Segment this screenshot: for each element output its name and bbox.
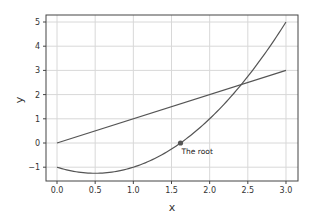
y-tick-label: −1 bbox=[28, 163, 40, 172]
x-tick-label: 0.0 bbox=[51, 186, 64, 195]
x-axis-label: x bbox=[169, 201, 176, 214]
x-tick-label: 1.5 bbox=[165, 186, 178, 195]
x-tick-label: 0.5 bbox=[89, 186, 102, 195]
x-tick-label: 3.0 bbox=[280, 186, 293, 195]
y-axis-ticks: −1012345 bbox=[28, 18, 46, 172]
y-tick-label: 1 bbox=[35, 115, 40, 124]
x-axis-ticks: 0.00.51.01.52.02.53.0 bbox=[51, 181, 293, 195]
y-axis-label: y bbox=[13, 96, 26, 103]
root-annotation: The root bbox=[181, 147, 213, 156]
x-tick-label: 1.0 bbox=[127, 186, 140, 195]
y-tick-label: 4 bbox=[35, 42, 40, 51]
y-tick-label: 5 bbox=[35, 18, 40, 27]
x-tick-label: 2.5 bbox=[241, 186, 254, 195]
y-tick-label: 0 bbox=[35, 139, 40, 148]
line-chart: The root 0.00.51.01.52.02.53.0 −1012345 … bbox=[0, 0, 310, 217]
x-tick-label: 2.0 bbox=[203, 186, 216, 195]
y-tick-label: 2 bbox=[35, 91, 40, 100]
axes-frame bbox=[46, 15, 298, 181]
root-marker bbox=[178, 140, 183, 145]
y-tick-label: 3 bbox=[35, 66, 40, 75]
grid-lines bbox=[46, 15, 298, 181]
